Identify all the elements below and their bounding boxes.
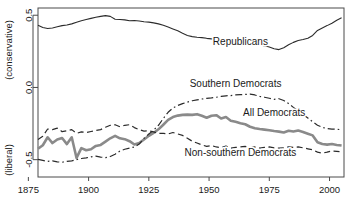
- x-tick-label: 1900: [78, 184, 99, 195]
- x-tick-label: 1925: [138, 184, 159, 195]
- x-tick-label: 1875: [18, 184, 39, 195]
- x-axis: 187519001925195019752000: [18, 177, 340, 195]
- chart-root: 1875190019251950197520000.50.0-0.5(conse…: [0, 0, 356, 204]
- y-axis: 0.50.0-0.5: [23, 9, 38, 168]
- series-label-republicans: Republicans: [213, 36, 268, 47]
- series-label-all-democrats: All Democrats: [243, 107, 305, 118]
- series-line-republicans: [38, 16, 342, 50]
- y-tick-label: 0.0: [23, 81, 34, 94]
- y-axis-conservative-label: (conservative): [3, 20, 14, 80]
- y-tick-label: 0.5: [23, 9, 34, 22]
- y-axis-liberal-label: (liberal): [3, 144, 14, 176]
- x-tick-label: 1975: [259, 184, 280, 195]
- series-label-non-southern-democrats: Non-southern Democrats: [185, 147, 297, 158]
- series-label-southern-democrats: Southern Democrats: [190, 78, 282, 89]
- x-tick-label: 1950: [199, 184, 220, 195]
- voting-polarization-line-chart: 1875190019251950197520000.50.0-0.5(conse…: [0, 0, 356, 204]
- x-tick-label: 2000: [319, 184, 340, 195]
- y-tick-label: -0.5: [23, 151, 34, 167]
